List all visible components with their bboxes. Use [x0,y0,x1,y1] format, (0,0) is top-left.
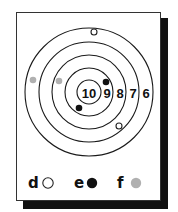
score-label-8: 8 [116,86,123,101]
legend-open-circle-icon [43,178,53,188]
gray-dot-hit [30,77,37,84]
legend: def [28,174,141,192]
legend-letter-e: e [74,174,84,192]
score-label-7: 7 [129,86,136,101]
black-dot-hit [76,105,83,112]
open-circle-hit [91,29,97,35]
gray-dot-hit [56,78,63,85]
score-label-6: 6 [142,86,149,101]
legend-gray-dot-icon [131,178,141,188]
open-circle-hit [116,123,122,129]
legend-letter-f: f [117,174,124,192]
score-label-9: 9 [103,86,110,101]
legend-black-dot-icon [87,178,97,188]
black-dot-hit [103,79,110,86]
target-diagram: 109876 def [0,0,178,212]
legend-letter-d: d [28,174,39,192]
score-label-10: 10 [82,86,96,101]
